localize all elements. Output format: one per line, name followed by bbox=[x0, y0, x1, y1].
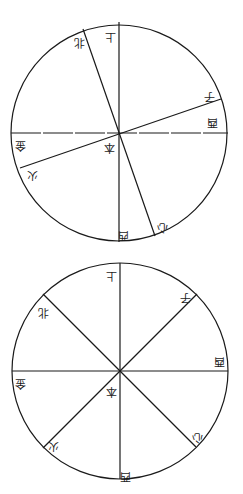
direction-label: 酉 bbox=[214, 355, 225, 368]
direction-label: 北 bbox=[38, 306, 49, 319]
direction-label: 本 bbox=[104, 141, 115, 155]
upper-circle-diagram bbox=[11, 22, 228, 242]
upper-labels: 上北子酉本金火西心 bbox=[15, 30, 218, 242]
direction-label: 金 bbox=[15, 377, 26, 391]
lower-circle-diagram bbox=[12, 263, 228, 479]
direction-label: 上 bbox=[105, 30, 116, 43]
direction-label: 酉 bbox=[207, 116, 218, 129]
direction-label: 本 bbox=[106, 385, 117, 399]
direction-label: 火 bbox=[27, 169, 38, 182]
direction-label: 西 bbox=[120, 470, 131, 483]
direction-label: 心 bbox=[192, 431, 203, 444]
direction-label: 北 bbox=[74, 36, 85, 49]
direction-label: 上 bbox=[106, 269, 117, 282]
direction-label: 西 bbox=[118, 229, 129, 242]
diagram-canvas: 上北子酉本金火西心 上子北酉金本心火西 bbox=[0, 0, 243, 494]
direction-label: 心 bbox=[157, 221, 168, 234]
direction-label: 子 bbox=[180, 291, 191, 304]
direction-label: 子 bbox=[204, 90, 215, 103]
direction-label: 火 bbox=[48, 440, 59, 453]
direction-label: 金 bbox=[15, 139, 26, 153]
